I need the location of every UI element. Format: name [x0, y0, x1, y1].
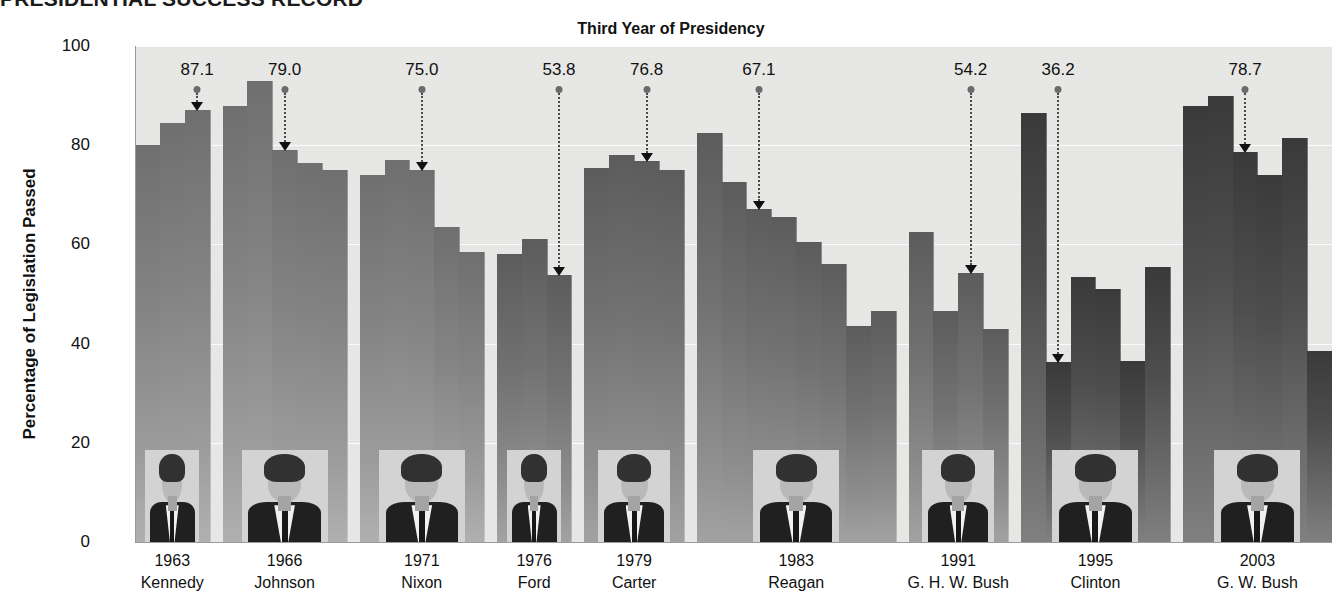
callout-stem [284, 93, 286, 142]
bar [1183, 106, 1209, 542]
callout-arrow [965, 265, 977, 274]
bar [722, 182, 748, 542]
president-portrait [753, 450, 839, 542]
callout-arrow [416, 162, 428, 171]
callout-arrow [1239, 144, 1251, 153]
y-axis-line [135, 46, 136, 543]
callout-stem [970, 93, 972, 265]
portrait-face [145, 450, 199, 542]
bar [846, 326, 872, 542]
callout-stem [421, 93, 423, 162]
plot-area [135, 46, 1332, 542]
callout-stem [196, 93, 198, 102]
y-axis-label: Percentage of Legislation Passed [20, 69, 40, 539]
callout-value: 79.0 [268, 60, 301, 80]
callout-value: 53.8 [542, 60, 575, 80]
callout-dot [281, 86, 288, 93]
y-tick-label: 100 [10, 36, 90, 56]
bar-group-ford [497, 46, 572, 542]
portrait-face [507, 450, 561, 542]
callout-stem [646, 93, 648, 153]
callout-dot [1242, 86, 1249, 93]
portrait-face [922, 450, 994, 542]
callout-value: 67.1 [742, 60, 775, 80]
bar-group-g-w-bush [1183, 46, 1332, 542]
bar-group-carter [584, 46, 683, 542]
bar-group-reagan [697, 46, 896, 542]
callout-arrow [641, 153, 653, 162]
x-label-g-w-bush: 2003G. W. Bush [1143, 550, 1342, 593]
bar [1021, 113, 1047, 542]
callout-value: 54.2 [954, 60, 987, 80]
callout-value: 78.7 [1229, 60, 1262, 80]
callout-arrow [191, 102, 203, 111]
portrait-face [753, 450, 839, 542]
bar [871, 311, 897, 542]
callout-stem [1057, 93, 1059, 354]
callout-arrow [279, 142, 291, 151]
chart-figure: PRESIDENTIAL SUCCESS RECORD Third Year o… [0, 0, 1342, 616]
bar-group-clinton [1021, 46, 1170, 542]
president-portrait [507, 450, 561, 542]
callout-stem [1244, 93, 1246, 144]
x-axis-line [135, 542, 1332, 543]
president-portrait [1052, 450, 1138, 542]
portrait-face [598, 450, 670, 542]
bar-group-kennedy [135, 46, 210, 542]
portrait-face [379, 450, 465, 542]
callout-dot [967, 86, 974, 93]
callout-dot [556, 86, 563, 93]
callout-arrow [1052, 354, 1064, 363]
bar [1307, 351, 1332, 542]
chart-title: Third Year of Presidency [0, 20, 1342, 38]
figure-headline: PRESIDENTIAL SUCCESS RECORD [0, 0, 363, 11]
bar [1145, 267, 1171, 542]
president-portrait [145, 450, 199, 542]
callout-value: 36.2 [1042, 60, 1075, 80]
callout-stem [558, 93, 560, 267]
portrait-face [242, 450, 328, 542]
callout-arrow [553, 267, 565, 276]
president-portrait [242, 450, 328, 542]
x-label-name: G. W. Bush [1143, 572, 1342, 594]
callout-stem [758, 93, 760, 201]
president-portrait [922, 450, 994, 542]
callout-value: 76.8 [630, 60, 663, 80]
bar-group-g-h-w-bush [909, 46, 1008, 542]
bar [697, 133, 723, 542]
callout-dot [643, 86, 650, 93]
portrait-face [1052, 450, 1138, 542]
callout-dot [755, 86, 762, 93]
president-portrait [379, 450, 465, 542]
president-portrait [1214, 450, 1300, 542]
x-label-year: 2003 [1143, 550, 1342, 572]
callout-dot [194, 86, 201, 93]
callout-dot [1055, 86, 1062, 93]
president-portrait [598, 450, 670, 542]
callout-dot [418, 86, 425, 93]
callout-value: 87.1 [181, 60, 214, 80]
callout-value: 75.0 [405, 60, 438, 80]
callout-arrow [753, 201, 765, 210]
portrait-face [1214, 450, 1300, 542]
